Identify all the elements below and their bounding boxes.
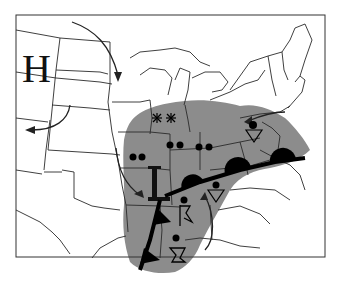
high-pressure-label: H	[22, 46, 51, 91]
weather-map: H	[0, 0, 340, 282]
